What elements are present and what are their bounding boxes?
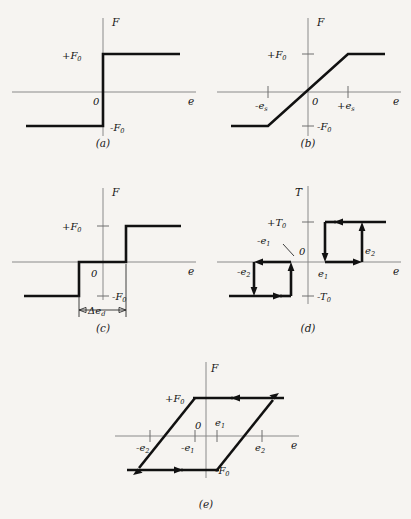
x-label-e2: e2 <box>255 442 265 455</box>
neg-saturation-label: -F0 <box>110 122 125 135</box>
pos-saturation-label: +F0 <box>165 393 185 406</box>
x-label-e1: e1 <box>318 268 328 281</box>
x-label-neg-e2: -e2 <box>237 266 251 279</box>
origin-label: 0 <box>195 420 202 431</box>
rising-branch <box>217 400 273 470</box>
up-transition-arrow <box>359 222 366 231</box>
y-axis-label: F <box>111 186 120 198</box>
x-axis-label: e <box>291 439 297 451</box>
down-transition-arrow <box>322 253 329 262</box>
origin-label: 0 <box>93 96 100 107</box>
axis-run-arrow-right <box>353 259 362 266</box>
pos-saturation-label: +T0 <box>267 217 286 230</box>
panel-b: F e 0 +F0 -F0 -es +es (b) <box>205 4 411 164</box>
axis-run-arrow-left <box>254 259 263 266</box>
panel-b-caption: (b) <box>205 137 411 149</box>
origin-label: 0 <box>312 96 319 107</box>
pos-saturation-label: +F0 <box>62 50 82 63</box>
pos-saturation-label: +F0 <box>62 221 82 234</box>
panel-a: F e 0 +F0 -F0 (a) <box>0 4 206 164</box>
neg-e1-leader-line <box>283 244 294 256</box>
panel-d: T e 0 +T0 -T0 <box>205 174 411 346</box>
panel-c-caption: (c) <box>0 322 206 334</box>
x-label-neg-e2: -e2 <box>136 442 150 455</box>
up-transition-neg-arrow <box>288 262 295 271</box>
x-axis-label: e <box>188 95 194 107</box>
x-label-neg-es: -es <box>255 100 268 113</box>
x-label-e2: e2 <box>365 245 375 258</box>
x-axis-label: e <box>393 265 399 277</box>
falling-branch <box>139 398 195 468</box>
x-axis-label: e <box>393 95 399 107</box>
panel-e: F e 0 +F0 -F0 <box>103 352 309 517</box>
panel-a-caption: (a) <box>0 137 206 149</box>
y-axis-label: F <box>210 362 219 374</box>
x-label-e1: e1 <box>215 417 225 430</box>
y-axis-label: T <box>295 186 303 198</box>
x-label-neg-e1: -e1 <box>181 442 195 455</box>
neg-saturation-label: -F0 <box>317 121 332 134</box>
panel-e-caption: (e) <box>103 498 309 510</box>
neg-saturation-label: -F0 <box>215 465 230 478</box>
y-axis-label: F <box>111 16 120 28</box>
neg-saturation-label: -F0 <box>112 291 127 304</box>
dead-zone-label: Δed <box>87 305 105 318</box>
down-transition-neg-arrow <box>251 287 258 296</box>
x-label-pos-es: +es <box>337 100 355 113</box>
panel-d-caption: (d) <box>205 322 411 334</box>
origin-label: 0 <box>299 246 306 257</box>
relay-characteristics-figure: F e 0 +F0 -F0 (a) F e 0 +F0 <box>0 0 411 519</box>
pos-saturation-label: +F0 <box>267 49 287 62</box>
neg-saturation-label: -T0 <box>317 291 331 304</box>
x-label-neg-e1: -e1 <box>257 235 271 248</box>
x-axis-label: e <box>188 265 194 277</box>
relay-curve <box>26 54 180 126</box>
y-axis-label: F <box>316 16 325 28</box>
panel-c: F e 0 +F0 -F0 Δed (c) <box>0 174 206 346</box>
origin-label: 0 <box>91 268 98 279</box>
